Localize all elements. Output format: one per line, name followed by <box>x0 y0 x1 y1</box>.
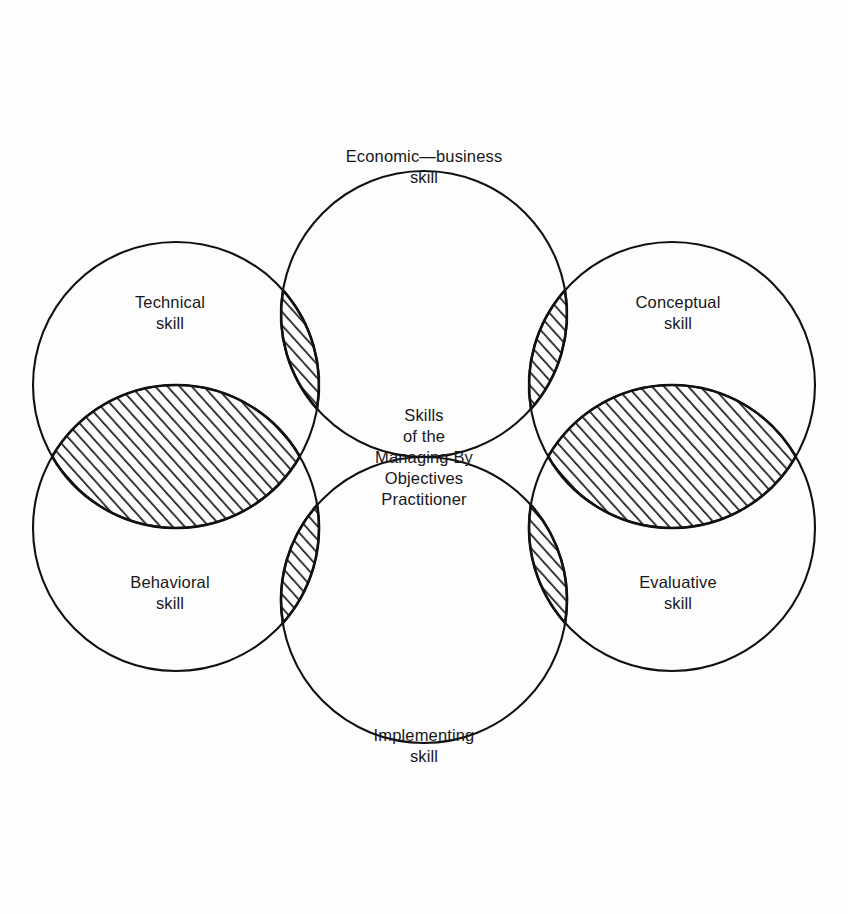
label-line: skill <box>410 168 438 186</box>
venn-diagram-canvas: Economic—businessskillConceptualskillEva… <box>0 0 848 914</box>
label-line: Conceptual <box>636 293 721 311</box>
center-title-line: of the <box>403 427 445 445</box>
label-line: skill <box>410 747 438 765</box>
center-title-line: Managing By <box>375 448 474 466</box>
label-line: Implementing <box>374 726 475 744</box>
label-line: skill <box>664 594 692 612</box>
label-line: Economic—business <box>346 147 503 165</box>
center-title-line: Skills <box>404 406 443 424</box>
label-line: skill <box>664 314 692 332</box>
label-line: skill <box>156 594 184 612</box>
label-line: Technical <box>135 293 205 311</box>
center-title-line: Objectives <box>385 469 464 487</box>
center-title-line: Practitioner <box>381 490 467 508</box>
venn-diagram-svg: Economic—businessskillConceptualskillEva… <box>0 0 848 914</box>
label-line: Behavioral <box>130 573 209 591</box>
label-line: Evaluative <box>639 573 717 591</box>
label-line: skill <box>156 314 184 332</box>
